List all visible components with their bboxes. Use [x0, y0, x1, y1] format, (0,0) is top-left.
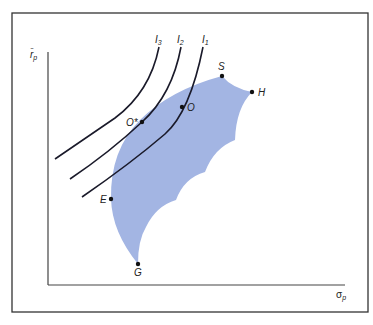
label-h: H [258, 87, 266, 98]
point-o-star [140, 120, 144, 124]
point-s [220, 74, 224, 78]
point-o [180, 105, 184, 109]
label-s: S [218, 61, 225, 72]
label-o-star: O* [126, 117, 139, 128]
feasible-set-diagram: I3 I2 I1 S H O O* E G r̄p σp [0, 0, 373, 325]
label-e: E [100, 194, 107, 205]
point-h [250, 90, 254, 94]
label-g: G [134, 267, 142, 278]
label-o: O [187, 102, 195, 113]
point-g [136, 262, 140, 266]
point-e [109, 197, 113, 201]
